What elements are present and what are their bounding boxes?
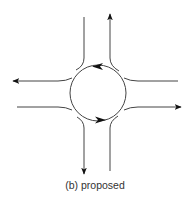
- north-exit-arrow: [110, 14, 119, 71]
- roundabout-circle: [70, 65, 126, 121]
- east-entry-line: [124, 78, 178, 81]
- north-entry-line: [76, 17, 84, 70]
- west-exit-arrow: [13, 78, 72, 81]
- circle-flow-arrow-top: [92, 63, 103, 70]
- roundabout-diagram: (b) proposed: [0, 0, 190, 199]
- west-entry-line: [17, 107, 72, 110]
- east-exit-arrow: [124, 107, 181, 110]
- diagram-caption: (b) proposed: [0, 179, 190, 191]
- circle-flow-arrow-bottom: [95, 117, 106, 124]
- south-exit-arrow: [77, 117, 84, 174]
- roundabout-svg: [0, 0, 190, 199]
- south-entry-line: [110, 116, 118, 171]
